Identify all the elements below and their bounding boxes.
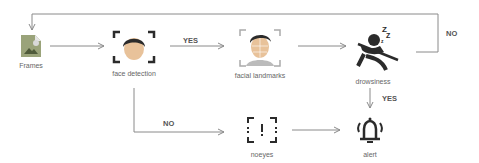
node-label-frames: Frames [19,62,43,69]
node-label-drowsiness: drowsiness [355,78,390,85]
connectors [0,0,479,163]
svg-text:z: z [381,38,384,44]
face-mesh-icon [238,28,282,68]
edge-label-yes-landmarks: YES [183,36,198,45]
node-label-facial-landmarks: facial landmarks [235,72,286,79]
edge-label-no-loop: NO [446,29,457,38]
edge-label-no-noeyes: NO [163,119,174,128]
edge-face-noeyes [134,88,224,132]
image-file-icon [20,34,42,58]
warning-frame-icon [246,116,278,144]
node-label-face-detection: face detection [112,70,156,77]
bell-alarm-icon [354,114,386,146]
sleeping-driver-icon: Z Z z [352,22,402,74]
node-label-noeyes: noeyes [251,151,274,158]
node-label-alert: alert [363,151,377,158]
face-detection-icon [112,30,156,64]
svg-text:Z: Z [386,32,391,39]
edge-label-yes-alert: YES [382,94,397,103]
